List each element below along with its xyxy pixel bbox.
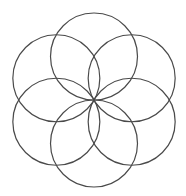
flower-diagram: [0, 0, 186, 196]
